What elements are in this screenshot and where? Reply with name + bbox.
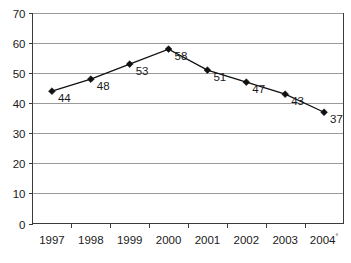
x-axis-tick-label-superscript: ° (335, 233, 338, 240)
x-axis-tick-label: 2004° (310, 233, 339, 246)
y-axis-tick-label: 30 (13, 128, 26, 140)
y-axis-tick-labels: 010203040506070 (13, 8, 26, 231)
plot-area-background (32, 13, 344, 224)
data-point-label: 47 (252, 83, 265, 95)
y-axis-tick-label: 20 (13, 158, 26, 170)
chart-canvas: 010203040506070 199719981999200020012002… (0, 0, 351, 263)
x-axis-tick-label: 2003 (272, 234, 298, 246)
y-axis-tick-label: 10 (13, 188, 26, 200)
data-point-label: 51 (213, 71, 226, 83)
y-axis-tick-label: 60 (13, 38, 26, 50)
x-axis-tick-label: 2000 (156, 234, 182, 246)
data-point-label: 53 (136, 65, 149, 77)
data-point-label: 48 (97, 80, 110, 92)
line-chart: 010203040506070 199719981999200020012002… (0, 0, 351, 263)
x-axis-tick-label: 2002 (234, 234, 260, 246)
data-point-label: 44 (58, 92, 71, 104)
data-point-label: 37 (330, 113, 343, 125)
x-axis-tick-labels: 19971998199920002001200220032004° (39, 233, 338, 246)
x-axis-tick-label: 1997 (39, 234, 65, 246)
y-axis-tick-label: 40 (13, 98, 26, 110)
data-point-label: 58 (175, 50, 188, 62)
x-axis-tick-label: 1998 (78, 234, 104, 246)
x-axis-tick-label: 1999 (117, 234, 143, 246)
y-axis-tick-label: 0 (19, 219, 25, 231)
y-axis-tick-label: 50 (13, 68, 26, 80)
data-point-label: 43 (291, 95, 304, 107)
y-axis-tick-label: 70 (13, 8, 26, 20)
x-axis-tick-label: 2001 (195, 234, 221, 246)
